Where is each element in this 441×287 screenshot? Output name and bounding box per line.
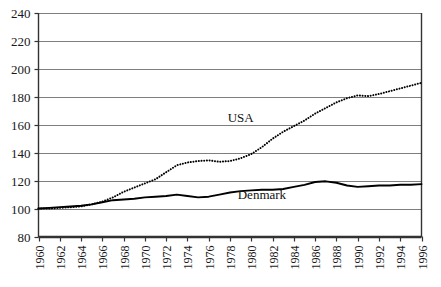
series-line-denmark bbox=[39, 181, 422, 208]
x-tick-label: 1980 bbox=[245, 246, 259, 270]
x-tick-label: 1994 bbox=[394, 246, 408, 270]
x-tick-label: 1982 bbox=[267, 246, 281, 270]
x-tick-label: 1976 bbox=[203, 246, 217, 270]
x-tick-label: 1986 bbox=[309, 246, 323, 270]
y-tick-label: 120 bbox=[11, 174, 31, 189]
x-tick-label: 1968 bbox=[118, 246, 132, 270]
series-line-usa bbox=[39, 83, 422, 209]
y-tick-label: 140 bbox=[11, 146, 31, 161]
series-annotation-denmark: Denmark bbox=[238, 187, 287, 202]
y-tick-label: 200 bbox=[11, 62, 31, 77]
series-annotations-group: USADenmark bbox=[228, 110, 287, 202]
y-axis-tick-labels: 80100120140160180200220240 bbox=[11, 6, 31, 245]
y-tick-label: 100 bbox=[11, 202, 31, 217]
x-tick-label: 1962 bbox=[54, 246, 68, 270]
y-tick-label: 160 bbox=[11, 118, 31, 133]
x-tick-label: 1996 bbox=[416, 246, 430, 270]
x-tick-label: 1966 bbox=[96, 246, 110, 270]
series-annotation-usa: USA bbox=[228, 110, 255, 125]
x-tick-label: 1970 bbox=[139, 246, 153, 270]
x-tick-label: 1992 bbox=[373, 246, 387, 270]
x-tick-label: 1964 bbox=[75, 246, 89, 270]
x-axis-tick-labels: 1960196219641966196819701972197419761978… bbox=[33, 246, 430, 270]
x-tick-label: 1984 bbox=[288, 246, 302, 270]
x-tick-label: 1972 bbox=[160, 246, 174, 270]
y-tick-label: 220 bbox=[11, 34, 31, 49]
y-tick-label: 240 bbox=[11, 6, 31, 21]
chart-canvas: 80100120140160180200220240 1960196219641… bbox=[0, 0, 441, 287]
x-tick-label: 1974 bbox=[181, 246, 195, 270]
x-tick-label: 1988 bbox=[330, 246, 344, 270]
y-tick-label: 80 bbox=[18, 230, 31, 245]
line-chart: 80100120140160180200220240 1960196219641… bbox=[0, 0, 441, 287]
x-tick-label: 1990 bbox=[352, 246, 366, 270]
x-tick-label: 1978 bbox=[224, 246, 238, 270]
y-tick-label: 180 bbox=[11, 90, 31, 105]
x-tick-label: 1960 bbox=[33, 246, 47, 270]
data-series-group bbox=[39, 83, 422, 209]
